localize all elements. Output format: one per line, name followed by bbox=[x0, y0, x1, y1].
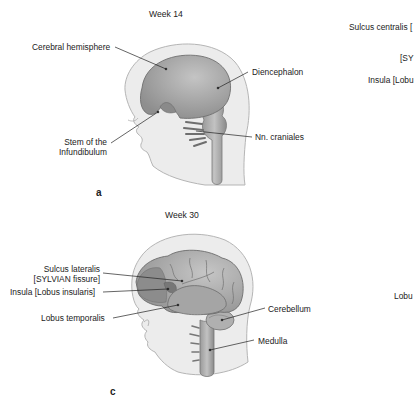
label-stem-line2: Infundibulum bbox=[56, 147, 107, 157]
label-sulcus-lateralis-line2: [SYLVIAN fissure] bbox=[28, 274, 100, 284]
label-sulcus-lateralis-line1: Sulcus lateralis bbox=[38, 264, 100, 274]
label-cerebral-hemisphere: Cerebral hemisphere bbox=[32, 42, 110, 52]
label-medulla: Medulla bbox=[258, 336, 287, 346]
label-sulcus-centralis-cropped: Sulcus centralis [ bbox=[349, 22, 412, 32]
label-stem-line1: Stem of the bbox=[62, 137, 107, 147]
label-insula-cropped: Insula [Lobu bbox=[368, 75, 414, 85]
panel-a-letter: a bbox=[96, 187, 102, 198]
panel-c-title: Week 30 bbox=[165, 210, 199, 220]
label-lobus-temporalis: Lobus temporalis bbox=[41, 313, 105, 323]
label-nn-craniales: Nn. craniales bbox=[255, 132, 304, 142]
label-sylvian-cropped: [SY bbox=[400, 53, 414, 63]
label-cerebellum: Cerebellum bbox=[268, 304, 311, 314]
panel-c-letter: c bbox=[110, 386, 116, 397]
label-insula: Insula [Lobus insularis] bbox=[10, 287, 95, 297]
panel-a-title: Week 14 bbox=[149, 9, 183, 19]
label-lobus-cropped: Lobu bbox=[394, 291, 413, 301]
label-diencephalon: Diencephalon bbox=[252, 67, 303, 77]
